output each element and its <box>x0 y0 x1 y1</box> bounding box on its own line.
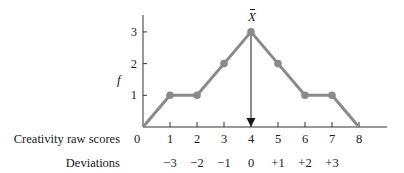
y-tick-label: 1 <box>123 88 137 102</box>
x-tick-label: 5 <box>275 132 281 146</box>
y-ticks <box>143 32 147 95</box>
x-tick-label: 1 <box>167 132 173 146</box>
data-point <box>274 60 282 68</box>
y-tick-label: 2 <box>123 57 137 71</box>
mean-symbol: X <box>248 9 256 24</box>
x-tick-label: 3 <box>221 132 227 146</box>
y-tick-label: 3 <box>123 25 137 39</box>
deviation-label: +2 <box>298 156 311 170</box>
x-tick-label: 4 <box>248 132 254 146</box>
data-point <box>220 60 228 68</box>
frequency-polygon-chart <box>0 0 404 173</box>
mean-bar <box>250 9 255 10</box>
deviation-label: −1 <box>217 156 230 170</box>
x-tick-label: 7 <box>329 132 335 146</box>
x-ticks <box>170 122 359 127</box>
deviations-label: Deviations <box>0 156 120 170</box>
x-axis-label: Creativity raw scores <box>0 132 120 146</box>
data-point <box>247 28 255 36</box>
data-point <box>328 92 336 100</box>
deviation-label: 0 <box>248 156 254 170</box>
deviation-label: +1 <box>271 156 284 170</box>
x-tick-label: 0 <box>134 132 140 146</box>
x-tick-label: 2 <box>194 132 200 146</box>
mean-label: X <box>248 10 256 24</box>
data-point <box>301 92 309 100</box>
y-axis-label: f <box>117 73 121 87</box>
data-point <box>193 92 201 100</box>
x-tick-label: 6 <box>302 132 308 146</box>
deviation-label: +3 <box>325 156 338 170</box>
x-tick-label: 8 <box>356 132 362 146</box>
deviation-label: −3 <box>163 156 176 170</box>
mean-arrow-head-icon <box>247 118 256 127</box>
deviation-label: −2 <box>190 156 203 170</box>
data-point <box>166 92 174 100</box>
